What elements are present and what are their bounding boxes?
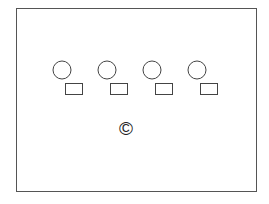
circle-group [53,61,206,79]
rect-1 [66,84,83,95]
circle-3 [143,61,161,79]
diagram-canvas [0,0,269,204]
circle-4 [188,61,206,79]
rect-group [66,84,218,95]
circle-2 [98,61,116,79]
circle-1 [53,61,71,79]
circled-c-label: © [116,119,136,139]
rect-2 [111,84,128,95]
rect-4 [201,84,218,95]
rect-3 [156,84,173,95]
outer-frame [17,9,257,192]
